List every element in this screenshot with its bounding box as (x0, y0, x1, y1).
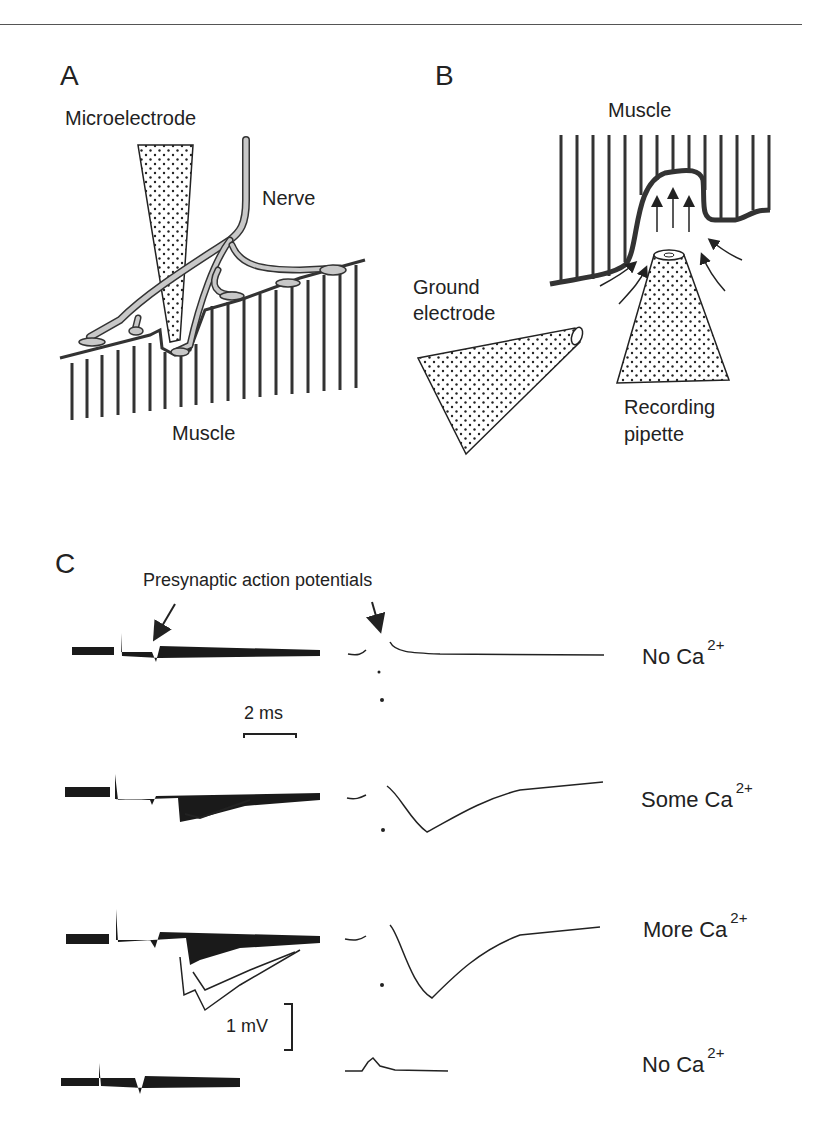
ap-arrow-left (155, 604, 175, 638)
trace-row-4 (61, 1058, 448, 1094)
trace-row-2 (65, 774, 603, 832)
panel-c-traces (0, 0, 816, 1137)
voltage-scale-bar (284, 1004, 292, 1050)
trace-row-1 (72, 633, 604, 702)
ap-arrow-right (372, 602, 380, 630)
time-scale-bar (244, 733, 296, 738)
trace-row-3 (66, 909, 600, 1010)
